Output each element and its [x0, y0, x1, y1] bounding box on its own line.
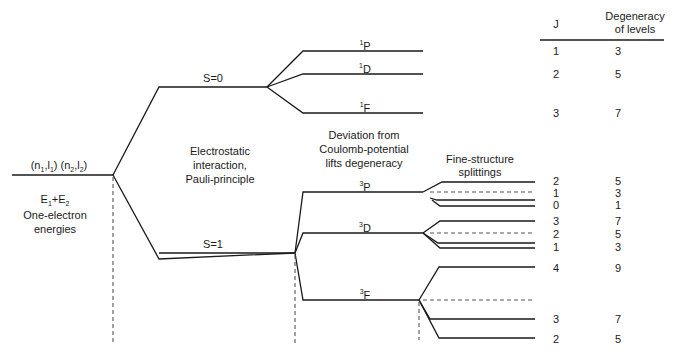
- term-1D-level: [267, 74, 423, 87]
- 3F-J4-level: [419, 267, 535, 300]
- degeneracy-value: 5: [611, 333, 625, 345]
- fine-structure-caption-1: Fine-structure: [440, 153, 520, 166]
- singlet-label: S=0: [168, 72, 258, 85]
- degeneracy-value: 7: [611, 215, 625, 227]
- j-value: 2: [549, 333, 563, 345]
- term-1P-level: [267, 51, 423, 87]
- j-value: 1: [549, 187, 563, 199]
- 3D-J1-level: [423, 233, 535, 248]
- term-3P-label: 3P: [350, 177, 380, 194]
- degeneracy-value: 3: [611, 241, 625, 253]
- one-electron-caption: One-electron: [10, 209, 100, 222]
- 3D-J1-a-level: [423, 233, 535, 243]
- degeneracy-value: 9: [611, 262, 625, 274]
- term-3D-label: 3D: [350, 218, 380, 235]
- configuration-label: (n1,l1) (n2,l2): [4, 159, 114, 176]
- electrostatic-caption-3: Pauli-principle: [170, 173, 270, 186]
- degeneracy-value: 3: [611, 187, 625, 199]
- deviation-caption-2: Coulomb-potential: [304, 143, 424, 156]
- fine-structure-caption-2: splittings: [440, 166, 520, 179]
- term-1D-label: 1D: [350, 59, 380, 76]
- term-3F-label: 3F: [350, 285, 380, 302]
- deviation-caption-1: Deviation from: [304, 129, 424, 142]
- j-value: 0: [549, 199, 563, 211]
- energies-caption: energies: [10, 223, 100, 236]
- j-value: 2: [549, 228, 563, 240]
- term-3D-level: [295, 233, 423, 253]
- j-value: 3: [549, 313, 563, 325]
- degeneracy-value: 7: [611, 313, 625, 325]
- triplet-label: S=1: [168, 238, 258, 251]
- table-header-degeneracy: Degeneracy: [600, 10, 670, 23]
- energy-sum-label: E1+E2: [10, 193, 100, 210]
- j-value: 4: [549, 262, 563, 274]
- degeneracy-value: 5: [611, 68, 625, 80]
- degeneracy-value: 7: [611, 107, 625, 119]
- term-1F-level: [267, 87, 423, 113]
- degeneracy-value: 3: [611, 45, 625, 57]
- 3P-J1-level: [430, 198, 535, 200]
- table-header-j: J: [549, 18, 563, 31]
- term-1P-label: 1P: [350, 36, 380, 53]
- j-value: 3: [549, 107, 563, 119]
- term-1F-label: 1F: [350, 98, 380, 115]
- j-value: 3: [549, 215, 563, 227]
- j-value: 1: [549, 45, 563, 57]
- 3P-J0-level: [432, 200, 535, 206]
- j-value: 1: [549, 241, 563, 253]
- electrostatic-caption-2: interaction,: [170, 159, 270, 172]
- 3D-J3-level: [423, 221, 535, 233]
- j-value: 2: [549, 68, 563, 80]
- degeneracy-value: 5: [611, 228, 625, 240]
- j-value: 2: [549, 175, 563, 187]
- energy-level-diagram: [0, 0, 674, 354]
- electrostatic-caption-1: Electrostatic: [170, 145, 270, 158]
- degeneracy-value: 5: [611, 175, 625, 187]
- table-header-of-levels: of levels: [600, 23, 670, 36]
- deviation-caption-3: lifts degeneracy: [304, 157, 424, 170]
- degeneracy-value: 1: [611, 199, 625, 211]
- 3F-J3-level: [419, 300, 535, 319]
- 3P-J2-level: [423, 182, 535, 192]
